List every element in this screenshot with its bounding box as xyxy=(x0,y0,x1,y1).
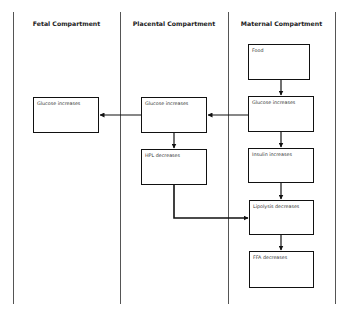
node-placental-glucose-label: Glucose increases xyxy=(145,101,188,106)
node-maternal-glucose: Glucose increases xyxy=(248,96,314,132)
node-ffa: FFA decreases xyxy=(249,251,314,288)
node-food: Food xyxy=(248,44,310,80)
node-placental-glucose: Glucose increases xyxy=(141,97,207,133)
node-hpl-label: HPL decreases xyxy=(145,153,180,158)
node-lipolysis-label: Lipolysis decreases xyxy=(253,204,299,209)
node-fetal-glucose-label: Glucose increases xyxy=(37,101,80,106)
node-fetal-glucose: Glucose increases xyxy=(33,97,99,133)
node-food-label: Food xyxy=(252,48,264,53)
node-insulin-label: Insulin increases xyxy=(252,152,292,157)
node-hpl: HPL decreases xyxy=(141,149,207,185)
node-ffa-label: FFA decreases xyxy=(253,255,287,260)
node-insulin: Insulin increases xyxy=(248,148,314,183)
node-lipolysis: Lipolysis decreases xyxy=(249,200,314,235)
node-maternal-glucose-label: Glucose increases xyxy=(252,100,295,105)
